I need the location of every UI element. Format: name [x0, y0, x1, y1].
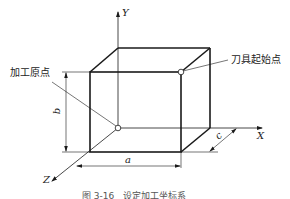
- tool-start-marker: [178, 69, 184, 75]
- y-axis-label: Y: [122, 8, 129, 18]
- x-axis-label: X: [257, 131, 264, 141]
- coordinate-system-diagram: [0, 0, 290, 199]
- z-axis: [52, 128, 118, 181]
- dimension-b: [62, 72, 90, 152]
- dimension-a-label: a: [125, 155, 131, 165]
- z-axis-label: Z: [43, 175, 50, 185]
- dimension-c: [181, 129, 236, 152]
- machining-origin-label: 加工原点: [10, 68, 50, 78]
- dimension-b-label: b: [52, 108, 62, 114]
- leader-machining-origin: [52, 82, 116, 126]
- figure-caption: 图 3-16 设定加工坐标系: [82, 192, 186, 199]
- tool-start-point-label: 刀具起始点: [231, 55, 281, 65]
- machining-origin-marker: [115, 125, 121, 131]
